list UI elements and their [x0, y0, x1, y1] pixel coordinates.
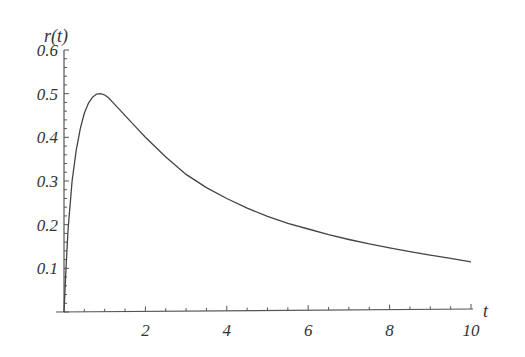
x-tick-label: 4	[223, 321, 232, 340]
y-tick-label: 0.5	[37, 85, 58, 104]
line-chart: 0.10.20.30.40.50.6 246810 r(t) t	[0, 0, 525, 357]
series-line	[64, 94, 471, 312]
y-axis-label: r(t)	[44, 26, 68, 47]
x-axis: 246810	[56, 304, 480, 340]
x-tick-label: 6	[304, 321, 313, 340]
x-tick-label: 2	[141, 321, 150, 340]
x-tick-label: 10	[463, 321, 481, 340]
y-tick-label: 0.3	[37, 172, 58, 191]
y-tick-label: 0.2	[37, 216, 59, 235]
y-axis: 0.10.20.30.40.50.6	[37, 41, 69, 312]
x-tick-label: 8	[385, 321, 394, 340]
x-axis-label: t	[483, 301, 489, 321]
y-tick-label: 0.4	[37, 128, 59, 147]
y-tick-label: 0.1	[37, 259, 58, 278]
